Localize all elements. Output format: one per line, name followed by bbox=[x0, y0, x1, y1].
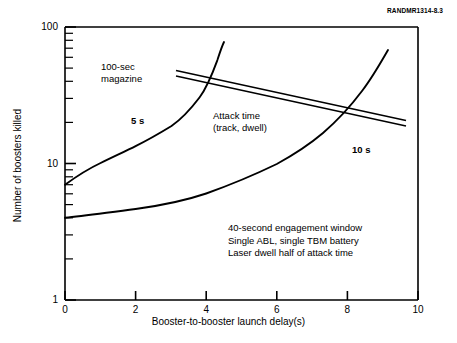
caption-line-3: Laser dwell half of attack time bbox=[228, 247, 362, 260]
x-tick-label-10: 10 bbox=[403, 304, 433, 315]
magazine-annotation-line2: magazine bbox=[101, 73, 142, 85]
y-tick-label-100: 100 bbox=[24, 21, 58, 32]
magazine-annotation-line1: 100-sec bbox=[101, 61, 142, 73]
attack-time-annotation-line1: Attack time bbox=[213, 110, 267, 122]
magazine-annotation: 100-sec magazine bbox=[101, 61, 142, 84]
x-tick-label-0: 0 bbox=[50, 304, 80, 315]
x-axis-ticks bbox=[65, 291, 418, 300]
x-tick-label-8: 8 bbox=[332, 304, 362, 315]
attack-time-annotation-line2: (track, dwell) bbox=[213, 122, 267, 134]
x-axis-title: Booster-to-booster launch delay(s) bbox=[0, 316, 457, 327]
y-tick-label-10: 10 bbox=[24, 158, 58, 169]
x-tick-label-6: 6 bbox=[262, 304, 292, 315]
x-tick-label-4: 4 bbox=[191, 304, 221, 315]
attack-time-annotation: Attack time (track, dwell) bbox=[213, 110, 267, 133]
x-tick-label-2: 2 bbox=[121, 304, 151, 315]
y-axis-minor-ticks bbox=[65, 33, 73, 259]
series-label-5s: 5 s bbox=[131, 115, 144, 126]
figure-container: RANDMR1314-8.3 bbox=[0, 0, 457, 343]
caption-line-2: Single ABL, single TBM battery bbox=[228, 235, 362, 248]
caption-line-1: 40-second engagement window bbox=[228, 222, 362, 235]
series-label-10s: 10 s bbox=[352, 144, 371, 155]
y-axis-title: Number of boosters killed bbox=[12, 86, 23, 246]
caption-block: 40-second engagement window Single ABL, … bbox=[228, 222, 362, 260]
curve-5s bbox=[65, 42, 224, 185]
chart-plot-area bbox=[0, 0, 457, 343]
